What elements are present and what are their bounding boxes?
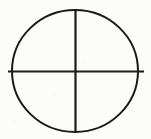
circle-crosshair-figure [0,0,151,139]
figure-canvas [0,0,151,139]
